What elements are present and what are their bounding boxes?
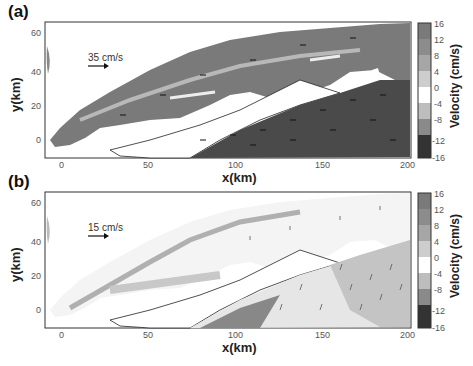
x-tick: 0 [59, 160, 64, 170]
colorbar-tick: -4 [434, 269, 442, 279]
x-tick: 50 [143, 160, 153, 170]
colorbar-label: Velocity (cm/s) [448, 214, 462, 298]
y-tick: 40 [31, 67, 41, 77]
velocity-map [0, 0, 473, 180]
y-tick: 0 [36, 305, 41, 315]
velocity-map [0, 170, 473, 350]
y-tick: 20 [31, 101, 41, 111]
colorbar-tick: 0 [434, 83, 439, 93]
x-tick: 100 [228, 330, 243, 340]
x-tick: 150 [315, 330, 330, 340]
colorbar-tick: 8 [434, 221, 439, 231]
colorbar-tick: 4 [434, 237, 439, 247]
colorbar-tick: -8 [434, 115, 442, 125]
panel-a: (a) [0, 0, 473, 180]
colorbar [418, 193, 431, 328]
colorbar-tick: -12 [432, 136, 445, 146]
colorbar-tick: 4 [434, 67, 439, 77]
x-axis-label: x(km) [222, 340, 257, 355]
y-tick: 60 [31, 198, 41, 208]
colorbar-tick: -4 [434, 99, 442, 109]
colorbar-tick: -16 [432, 323, 445, 333]
colorbar-tick: 16 [434, 19, 444, 29]
colorbar-tick: -12 [432, 306, 445, 316]
y-axis-label: y(km) [8, 77, 23, 112]
y-tick: 0 [36, 135, 41, 145]
x-tick: 0 [59, 330, 64, 340]
x-tick: 200 [400, 160, 415, 170]
colorbar-tick: -16 [432, 153, 445, 163]
panel-b: (b) 15 cm/s y(km) [0, 170, 473, 350]
x-tick: 100 [228, 160, 243, 170]
reference-vector-label: 15 cm/s [88, 222, 123, 233]
y-tick: 60 [31, 28, 41, 38]
y-tick: 20 [31, 271, 41, 281]
colorbar-tick: 12 [434, 35, 444, 45]
x-tick: 150 [315, 160, 330, 170]
colorbar-tick: 0 [434, 253, 439, 263]
colorbar-tick: -8 [434, 285, 442, 295]
colorbar-tick: 16 [434, 189, 444, 199]
x-tick: 50 [143, 330, 153, 340]
colorbar-tick: 12 [434, 205, 444, 215]
reference-vector-label: 35 cm/s [88, 52, 123, 63]
colorbar [418, 23, 431, 158]
y-tick: 40 [31, 237, 41, 247]
x-tick: 200 [400, 330, 415, 340]
colorbar-tick: 8 [434, 51, 439, 61]
colorbar-label: Velocity (cm/s) [448, 44, 462, 128]
y-axis-label: y(km) [8, 247, 23, 282]
